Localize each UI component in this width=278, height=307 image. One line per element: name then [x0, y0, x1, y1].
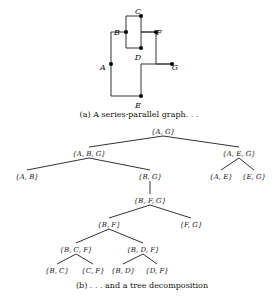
- graph-edge-E-G: [141, 64, 172, 96]
- vertex-label-B: B: [113, 28, 120, 37]
- tree-edge-BF-BCF: [76, 229, 109, 243]
- tree-edge-BFG-BF: [109, 205, 150, 218]
- tree-edge-BF-BDF: [109, 229, 143, 243]
- figure: ABCDEFG (a) A series-parallel graph. . .…: [0, 0, 278, 307]
- vertex-E: [139, 94, 143, 98]
- vertex-label-G: G: [172, 63, 179, 72]
- series-parallel-graph-edges: [111, 16, 172, 96]
- tree-node-AEG: {A, E, G}: [222, 150, 256, 158]
- vertex-label-E: E: [134, 101, 141, 110]
- tree-node-BF: {B, F}: [97, 221, 120, 229]
- vertex-D: [139, 46, 143, 50]
- tree-node-DF: {D, F}: [145, 267, 169, 275]
- vertex-label-D: D: [134, 53, 142, 62]
- tree-node-CF: {C, F}: [81, 267, 104, 275]
- tree-node-EG: {E, G}: [242, 173, 266, 181]
- tree-edge-ABG-BG: [89, 158, 150, 170]
- tree-edge-BDF-BD: [123, 254, 143, 264]
- vertex-A: [109, 62, 113, 66]
- caption-a: (a) A series-parallel graph. . .: [80, 110, 199, 119]
- tree-node-BCF: {B, C, F}: [60, 246, 93, 254]
- tree-edge-AEG-EG: [239, 158, 254, 170]
- tree-node-BC: {B, C}: [45, 267, 69, 275]
- tree-edge-ABG-AB: [27, 158, 89, 170]
- tree-edge-BCF-CF: [76, 254, 93, 264]
- vertex-B: [124, 30, 128, 34]
- vertex-label-F: F: [155, 28, 162, 37]
- tree-node-AE: {A, E}: [209, 173, 233, 181]
- tree-node-BFG: {B, F, G}: [134, 197, 166, 205]
- caption-b: (b) . . . and a tree decomposition: [76, 281, 208, 290]
- tree-edge-AEG-AE: [221, 158, 239, 170]
- tree-decomposition-nodes: {A, G}{A, B, G}{A, E, G}{A, B}{B, G}{A, …: [15, 128, 266, 275]
- tree-node-ABG: {A, B, G}: [72, 150, 106, 158]
- graph-edge-C-F: [141, 16, 156, 32]
- tree-node-BD: {B, D}: [111, 267, 135, 275]
- tree-edge-BCF-BC: [57, 254, 76, 264]
- tree-node-AB: {A, B}: [15, 173, 39, 181]
- tree-node-FG: {F, G}: [180, 221, 203, 229]
- tree-node-AG: {A, G}: [151, 128, 175, 136]
- tree-node-BDF: {B, D, F}: [126, 246, 159, 254]
- vertex-label-A: A: [99, 63, 106, 72]
- tree-edge-BDF-DF: [143, 254, 157, 264]
- tree-edge-AG-ABG: [89, 136, 163, 147]
- vertex-label-C: C: [135, 7, 141, 16]
- graph-edge-D-F: [141, 32, 156, 48]
- graph-edge-A-E: [111, 64, 141, 96]
- tree-node-BG: {B, G}: [138, 173, 162, 181]
- tree-edge-AG-AEG: [163, 136, 239, 147]
- graph-edge-B-D: [126, 32, 141, 48]
- tree-edge-BFG-FG: [150, 205, 191, 218]
- graph-edge-B-C: [126, 16, 141, 32]
